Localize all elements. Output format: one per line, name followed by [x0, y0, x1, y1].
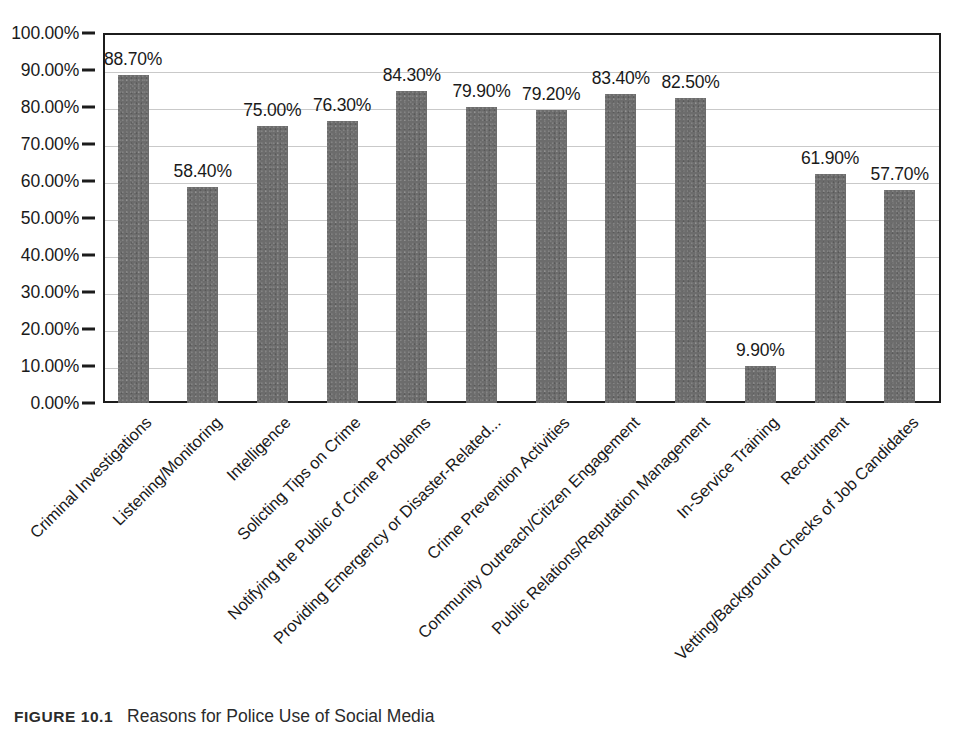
- y-axis-tick-label: 20.00%: [21, 319, 79, 340]
- bar: [396, 91, 427, 403]
- y-axis-tick-label: 50.00%: [21, 208, 79, 229]
- bar: [605, 94, 636, 403]
- bar-value-label: 79.90%: [452, 81, 510, 102]
- x-axis-category-label: Criminal Investigations: [26, 413, 155, 542]
- bar-value-label: 58.40%: [174, 161, 232, 182]
- y-axis-tick-label: 60.00%: [21, 171, 79, 192]
- bar: [187, 187, 218, 403]
- bar: [257, 126, 288, 404]
- bar: [815, 174, 846, 403]
- figure-caption-text: Reasons for Police Use of Social Media: [127, 706, 434, 726]
- bar-value-label: 88.70%: [104, 49, 162, 70]
- bar-value-label: 75.00%: [243, 100, 301, 121]
- y-axis-tick-mark: [82, 217, 95, 220]
- x-axis-category-labels: Criminal InvestigationsListening/Monitor…: [0, 403, 967, 683]
- bar-value-label: 76.30%: [313, 95, 371, 116]
- bar-value-label: 57.70%: [871, 164, 929, 185]
- y-axis-tick-label: 90.00%: [21, 60, 79, 81]
- bar: [118, 75, 149, 403]
- x-axis-category-label: Crime Prevention Activities: [423, 413, 573, 563]
- bar: [536, 110, 567, 403]
- y-axis-tick-label: 100.00%: [11, 23, 79, 44]
- figure-caption-label: FIGURE 10.1: [14, 708, 113, 725]
- y-axis-tick-mark: [82, 106, 95, 109]
- y-axis-tick-label: 40.00%: [21, 245, 79, 266]
- x-axis-category-label: Vetting/Background Checks of Job Candida…: [671, 413, 922, 664]
- figure-container: 100.00%90.00%80.00%70.00%60.00%50.00%40.…: [0, 0, 967, 738]
- x-axis-category-label: Intelligence: [223, 413, 295, 485]
- bars-layer: 88.70%58.40%75.00%76.30%84.30%79.90%79.2…: [103, 33, 941, 403]
- y-axis-tick-mark: [82, 254, 95, 257]
- bar-value-label: 9.90%: [736, 340, 785, 361]
- figure-caption: FIGURE 10.1Reasons for Police Use of Soc…: [14, 706, 434, 727]
- y-axis-tick-mark: [82, 143, 95, 146]
- bar: [466, 107, 497, 403]
- y-axis-tick-mark: [82, 291, 95, 294]
- y-axis-tick-mark: [82, 180, 95, 183]
- bar: [884, 190, 915, 403]
- bar: [675, 98, 706, 403]
- bar: [745, 366, 776, 403]
- y-axis-tick-label: 70.00%: [21, 134, 79, 155]
- bar-value-label: 84.30%: [383, 65, 441, 86]
- y-axis-tick-mark: [82, 69, 95, 72]
- y-axis-tick-mark: [82, 365, 95, 368]
- bar-value-label: 83.40%: [592, 68, 650, 89]
- bar: [327, 121, 358, 403]
- y-axis-tick-label: 10.00%: [21, 356, 79, 377]
- y-axis: 100.00%90.00%80.00%70.00%60.00%50.00%40.…: [0, 33, 95, 403]
- y-axis-tick-label: 30.00%: [21, 282, 79, 303]
- y-axis-tick-label: 80.00%: [21, 97, 79, 118]
- y-axis-tick-mark: [82, 32, 95, 35]
- x-axis-category-label: Solicting Tips on Crime: [233, 413, 364, 544]
- bar-value-label: 61.90%: [801, 148, 859, 169]
- x-axis-category-label: Recruitment: [777, 413, 853, 489]
- y-axis-tick-mark: [82, 328, 95, 331]
- bar-value-label: 82.50%: [662, 72, 720, 93]
- bar-value-label: 79.20%: [522, 84, 580, 105]
